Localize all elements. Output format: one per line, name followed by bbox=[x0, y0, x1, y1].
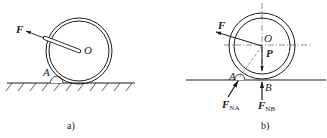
label-contact-a-b: A bbox=[228, 70, 236, 82]
caption-a: a) bbox=[67, 120, 75, 132]
ground-hatching bbox=[6, 83, 132, 91]
label-contact-a: A bbox=[42, 66, 50, 78]
label-force-f: F bbox=[15, 23, 24, 35]
label-weight-p: P bbox=[266, 47, 273, 59]
label-normal-a: FNA bbox=[221, 98, 239, 112]
label-contact-b: B bbox=[265, 81, 272, 93]
mechanics-diagram: F O A a) F O P A FNA B FNB bbox=[0, 0, 327, 138]
figure-b: F O P A FNA B FNB b) bbox=[186, 3, 326, 132]
force-f-arrow bbox=[26, 31, 44, 38]
force-f-arrow-b bbox=[216, 32, 262, 46]
normal-force-a-arrow bbox=[228, 81, 238, 97]
label-force-f-b: F bbox=[217, 19, 226, 31]
label-center-o-b: O bbox=[264, 32, 272, 44]
caption-b: b) bbox=[261, 120, 269, 132]
label-center-o: O bbox=[84, 44, 92, 56]
figure-a: F O A a) bbox=[6, 18, 135, 132]
obstacle-a bbox=[50, 76, 63, 83]
label-normal-b: FNB bbox=[257, 99, 275, 113]
